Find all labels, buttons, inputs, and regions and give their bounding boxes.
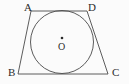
geometry-figure: A D B C O bbox=[0, 0, 129, 84]
vertex-label-c: C bbox=[112, 67, 119, 78]
vertex-label-d: D bbox=[88, 2, 96, 13]
vertex-label-a: A bbox=[24, 2, 32, 13]
circle-center-label-o: O bbox=[58, 42, 65, 52]
vertex-label-b: B bbox=[8, 67, 15, 78]
center-point-dot bbox=[61, 37, 64, 40]
